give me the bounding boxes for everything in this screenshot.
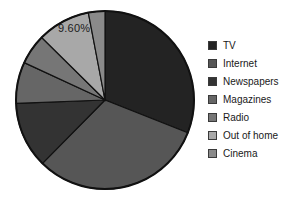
- legend-item-radio[interactable]: Radio: [208, 108, 295, 126]
- pie-chart-plot-area: 9.60%: [0, 0, 205, 204]
- legend-swatch-icon: [208, 77, 217, 86]
- legend-swatch-icon: [208, 113, 217, 122]
- legend-item-out-of-home[interactable]: Out of home: [208, 126, 295, 144]
- slice-data-label-out-of-home: 9.60%: [58, 22, 90, 34]
- legend-item-label: Out of home: [223, 130, 278, 141]
- legend-item-label: Cinema: [223, 148, 257, 159]
- legend-swatch-icon: [208, 149, 217, 158]
- chart-legend: TVInternetNewspapersMagazinesRadioOut of…: [208, 36, 295, 162]
- legend-swatch-icon: [208, 41, 217, 50]
- legend-item-magazines[interactable]: Magazines: [208, 90, 295, 108]
- legend-swatch-icon: [208, 95, 217, 104]
- legend-swatch-icon: [208, 131, 217, 140]
- legend-item-label: Newspapers: [223, 76, 279, 87]
- pie-chart-figure: 9.60% TVInternetNewspapersMagazinesRadio…: [0, 0, 295, 204]
- legend-item-internet[interactable]: Internet: [208, 54, 295, 72]
- legend-item-tv[interactable]: TV: [208, 36, 295, 54]
- pie-chart-svg: [0, 0, 205, 204]
- legend-item-cinema[interactable]: Cinema: [208, 144, 295, 162]
- legend-item-newspapers[interactable]: Newspapers: [208, 72, 295, 90]
- legend-item-label: TV: [223, 40, 236, 51]
- legend-item-label: Radio: [223, 112, 249, 123]
- legend-swatch-icon: [208, 59, 217, 68]
- legend-item-label: Internet: [223, 58, 257, 69]
- legend-item-label: Magazines: [223, 94, 271, 105]
